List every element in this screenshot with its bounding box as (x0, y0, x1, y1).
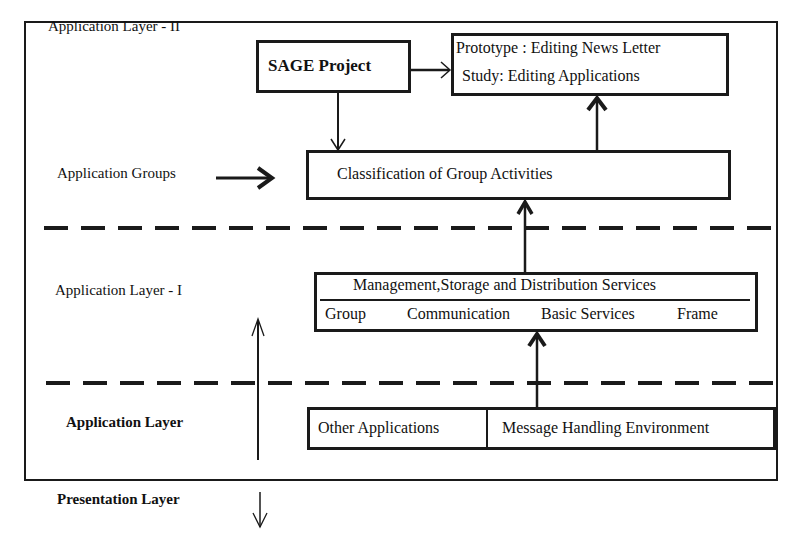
connectors (0, 0, 793, 544)
